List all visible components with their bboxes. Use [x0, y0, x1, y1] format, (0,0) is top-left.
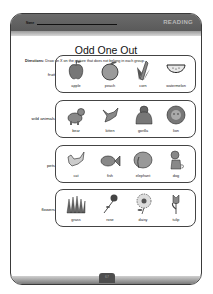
item-label: rose	[93, 218, 127, 222]
item-label: apple	[59, 84, 93, 88]
item-label: lion	[159, 129, 193, 133]
apple-icon	[66, 59, 86, 81]
item-apple[interactable]: apple	[59, 58, 93, 92]
group-wild-animals: bear kitten gorilla lion	[55, 100, 196, 138]
item-label: gorilla	[126, 129, 160, 133]
item-cat[interactable]: cat	[59, 148, 93, 182]
item-label: grass	[59, 218, 93, 222]
item-kitten[interactable]: kitten	[93, 103, 127, 137]
item-label: cat	[59, 174, 93, 178]
grass-icon	[66, 193, 86, 215]
item-label: bear	[59, 129, 93, 133]
page-number: 67	[99, 275, 115, 279]
category-wild-animals: wild animals	[19, 116, 55, 122]
item-watermelon[interactable]: watermelon	[159, 58, 193, 92]
page-number-tab: 67	[99, 273, 115, 283]
item-label: dog	[159, 174, 193, 178]
peach-icon	[100, 59, 120, 81]
item-fish[interactable]: fish	[93, 148, 127, 182]
item-lion[interactable]: lion	[159, 103, 193, 137]
item-dog[interactable]: dog	[159, 148, 193, 182]
worksheet-page: Name READING Odd One Out Directions: Dra…	[10, 13, 202, 285]
item-label: kitten	[93, 129, 127, 133]
daisy-icon	[133, 193, 153, 215]
header-strip	[11, 31, 201, 36]
directions-label: Directions:	[25, 59, 44, 63]
item-grass[interactable]: grass	[59, 192, 93, 226]
dog-icon	[166, 149, 186, 171]
corn-icon	[133, 59, 153, 81]
elephant-icon	[129, 149, 157, 171]
item-daisy[interactable]: daisy	[126, 192, 160, 226]
bear-icon	[66, 104, 86, 126]
item-label: daisy	[126, 218, 160, 222]
category-fruit: fruit	[19, 72, 55, 78]
item-peach[interactable]: peach	[93, 58, 127, 92]
item-label: fish	[93, 174, 127, 178]
item-label: corn	[126, 84, 160, 88]
item-gorilla[interactable]: gorilla	[126, 103, 160, 137]
watermelon-icon	[162, 59, 190, 81]
subject-label: READING	[163, 19, 193, 25]
lion-icon	[166, 104, 186, 126]
rose-icon	[100, 193, 120, 215]
gorilla-icon	[133, 104, 153, 126]
item-bear[interactable]: bear	[59, 103, 93, 137]
group-flowers: grass rose daisy tulip	[55, 189, 196, 227]
name-label: Name	[26, 21, 34, 25]
item-elephant[interactable]: elephant	[126, 148, 160, 182]
fish-icon	[97, 149, 123, 171]
item-label: watermelon	[159, 84, 193, 88]
item-corn[interactable]: corn	[126, 58, 160, 92]
category-flowers: flowers	[19, 207, 55, 213]
item-tulip[interactable]: tulip	[159, 192, 193, 226]
name-line[interactable]	[37, 24, 117, 25]
category-pets: pets	[19, 163, 55, 169]
cat-icon	[66, 149, 86, 171]
item-label: tulip	[159, 218, 193, 222]
item-label: peach	[93, 84, 127, 88]
group-pets: cat fish elephant dog	[55, 145, 196, 183]
header-bar: Name READING	[11, 14, 201, 31]
item-label: elephant	[126, 174, 160, 178]
item-rose[interactable]: rose	[93, 192, 127, 226]
kitten-icon	[100, 104, 120, 126]
group-fruit: apple peach corn watermelon	[55, 55, 196, 93]
tulip-icon	[166, 193, 186, 215]
